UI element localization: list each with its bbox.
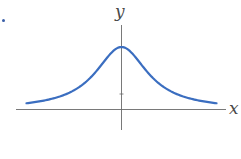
y-axis-label: y	[115, 3, 125, 20]
x-axis-label: x	[229, 100, 239, 117]
plot-area	[0, 0, 241, 159]
